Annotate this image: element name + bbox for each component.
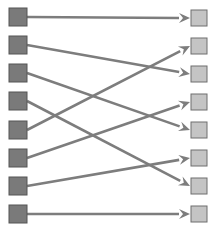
- left-node-L2: [9, 36, 27, 54]
- arrowhead-icon: [179, 13, 190, 23]
- right-node-R5: [191, 122, 207, 138]
- arrow-line: [27, 160, 179, 186]
- right-node-R2: [191, 38, 207, 54]
- right-node-R1: [191, 10, 207, 26]
- left-node-L1: [9, 8, 27, 26]
- arrowhead-icon: [179, 209, 190, 219]
- right-node-group: [191, 10, 207, 222]
- right-node-R3: [191, 66, 207, 82]
- arrowhead-icon: [178, 122, 190, 131]
- mapping-diagram: [0, 0, 212, 229]
- right-node-R4: [191, 94, 207, 110]
- arrowhead-icon: [178, 67, 190, 77]
- arrowhead-icon: [178, 101, 190, 110]
- left-node-L5: [9, 121, 27, 139]
- left-node-L7: [9, 177, 27, 195]
- right-node-R7: [191, 178, 207, 194]
- arrow-line: [27, 45, 179, 72]
- left-node-L6: [9, 149, 27, 167]
- left-node-group: [9, 8, 27, 223]
- left-node-L4: [9, 92, 27, 110]
- left-node-L3: [9, 64, 27, 82]
- right-node-R8: [191, 206, 207, 222]
- right-node-R6: [191, 150, 207, 166]
- left-node-L8: [9, 205, 27, 223]
- arrow-group: [27, 13, 190, 219]
- arrowhead-icon: [178, 155, 190, 165]
- arrow-line: [27, 17, 179, 18]
